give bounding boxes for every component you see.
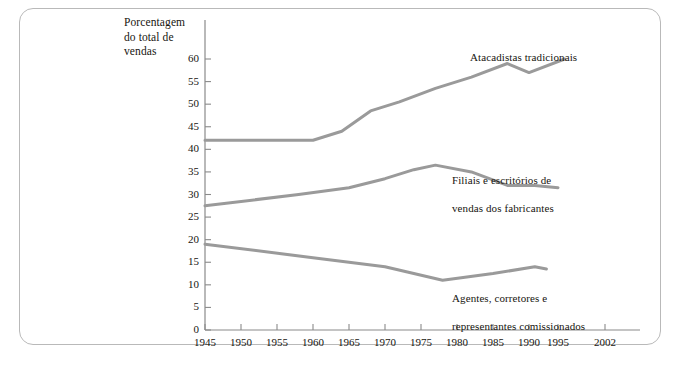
y-tick-label: 15 <box>175 255 199 267</box>
y-tick-label: 45 <box>175 120 199 132</box>
x-tick-label: 1975 <box>401 336 441 348</box>
y-tick-label: 60 <box>175 52 199 64</box>
series-label-atacadistas-text: Atacadistas tradicionais <box>470 51 577 63</box>
series-label-atacadistas: Atacadistas tradicionais <box>470 36 577 64</box>
y-tick-label: 35 <box>175 165 199 177</box>
series-label-agentes-line-1: Agentes, corretores e <box>452 291 585 305</box>
series-label-agentes-line-2: representantes comissionados <box>452 319 585 333</box>
y-tick-label: 20 <box>175 233 199 245</box>
series-label-filiais: Filiais e escritórios de vendas dos fabr… <box>452 159 554 229</box>
x-tick-label: 1955 <box>257 336 297 348</box>
series-label-agentes: Agentes, corretores e representantes com… <box>452 277 585 347</box>
series-line-0 <box>205 59 565 140</box>
chart-plot-area: Porcentagem do total de vendas 051015202… <box>0 0 682 371</box>
series-label-filiais-line-2: vendas dos fabricantes <box>452 201 554 215</box>
y-tick-label: 40 <box>175 142 199 154</box>
x-tick-label: 1965 <box>329 336 369 348</box>
x-tick-label: 1945 <box>185 336 225 348</box>
y-tick-label: 25 <box>175 210 199 222</box>
y-tick-label: 30 <box>175 188 199 200</box>
series-line-2 <box>205 244 546 280</box>
series-label-filiais-line-1: Filiais e escritórios de <box>452 173 554 187</box>
y-tick-label: 0 <box>175 323 199 335</box>
y-tick-label: 50 <box>175 97 199 109</box>
y-tick-label: 55 <box>175 75 199 87</box>
y-tick-label: 5 <box>175 300 199 312</box>
x-tick-label: 1970 <box>365 336 405 348</box>
x-tick-label: 2002 <box>585 336 625 348</box>
x-tick-label: 1960 <box>293 336 333 348</box>
x-tick-label: 1950 <box>221 336 261 348</box>
y-tick-label: 10 <box>175 278 199 290</box>
